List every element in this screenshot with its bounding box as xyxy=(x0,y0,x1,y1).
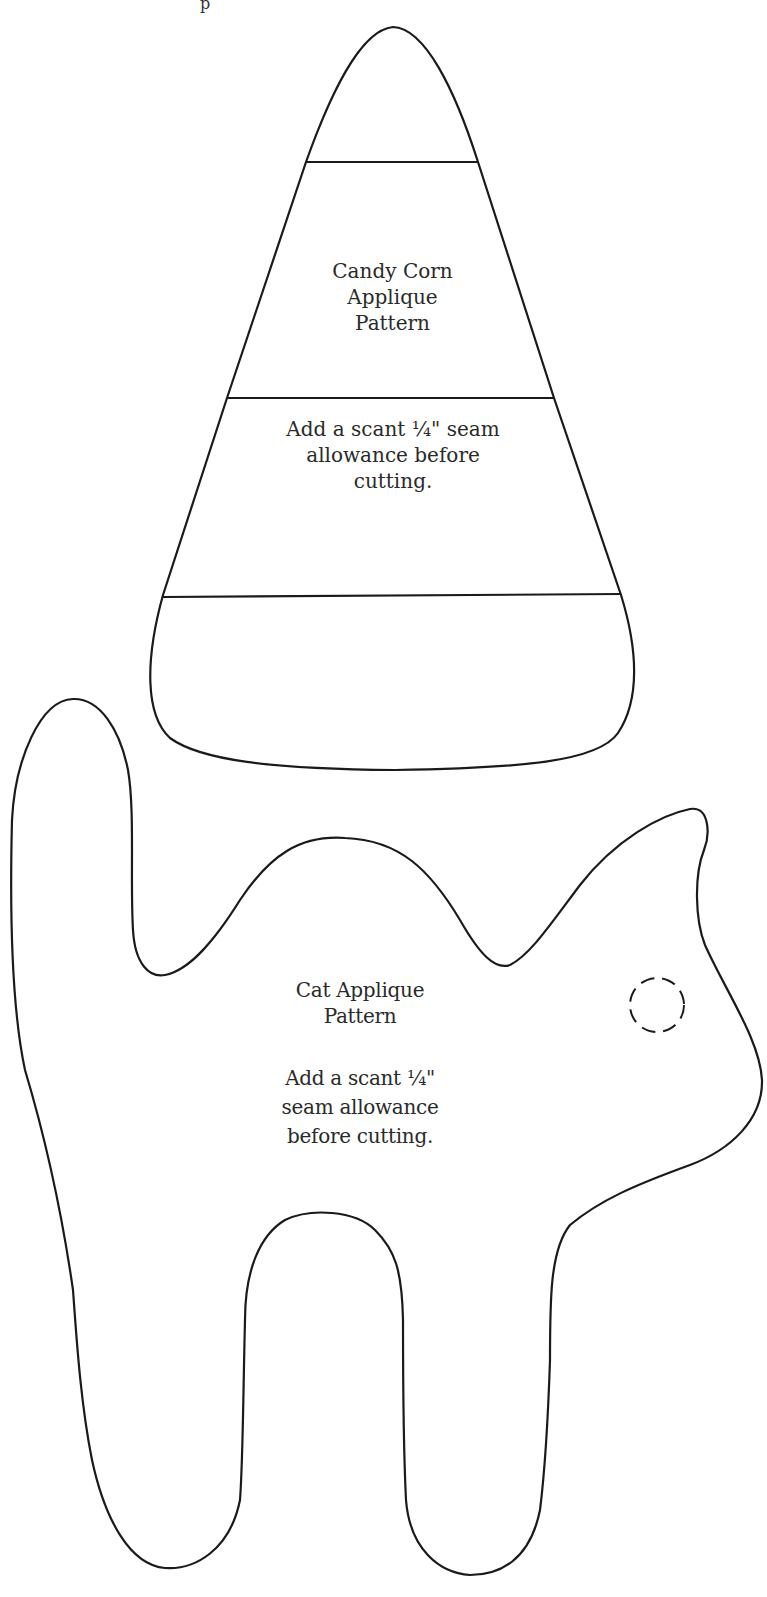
candy-corn-pattern xyxy=(150,27,634,770)
pattern-artwork xyxy=(0,0,767,1597)
pattern-page: p Candy Corn Applique Pattern Add a scan… xyxy=(0,0,767,1597)
cat-title: Cat Applique Pattern xyxy=(260,977,460,1029)
cat-seam-note: Add a scant ¼" seam allowance before cut… xyxy=(250,1064,470,1151)
cat-eye-placement-circle xyxy=(630,978,684,1032)
candy-corn-stripe-3 xyxy=(163,594,621,597)
candy-corn-seam-note: Add a scant ¼" seam allowance before cut… xyxy=(248,416,538,494)
candy-corn-title: Candy Corn Applique Pattern xyxy=(290,258,495,336)
